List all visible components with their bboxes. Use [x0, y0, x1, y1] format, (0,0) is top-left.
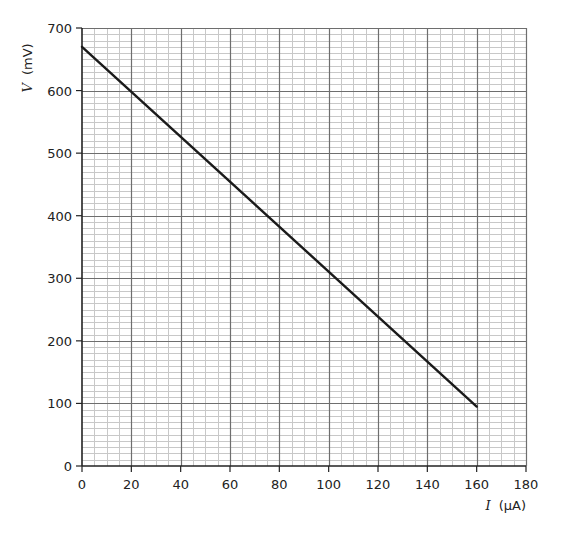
y-axis-label: V (mV)	[20, 43, 35, 92]
minor-grid	[82, 28, 526, 466]
x-tick-label: 80	[271, 477, 288, 492]
x-tick-label: 0	[78, 477, 86, 492]
y-tick-label: 100	[47, 396, 72, 411]
y-tick-label: 400	[47, 209, 72, 224]
y-tick-label: 200	[47, 334, 72, 349]
x-tick-label: 60	[222, 477, 239, 492]
y-tick-label: 500	[47, 146, 72, 161]
x-tick-label: 40	[172, 477, 189, 492]
x-axis-variable: I	[484, 498, 491, 513]
y-tick-label: 600	[47, 84, 72, 99]
chart: 020406080100120140160180 010020030040050…	[0, 0, 561, 538]
y-tick-label: 0	[64, 459, 72, 474]
x-tick-label: 20	[123, 477, 140, 492]
y-axis-variable: V	[20, 82, 35, 93]
x-tick-labels: 020406080100120140160180	[78, 477, 539, 492]
y-axis-unit: (mV)	[20, 43, 35, 75]
x-axis-label: I (µA)	[484, 498, 526, 513]
x-axis-unit: (µA)	[499, 498, 526, 513]
x-tick-label: 120	[366, 477, 391, 492]
y-tick-label: 300	[47, 271, 72, 286]
axes	[76, 28, 526, 472]
y-tick-label: 700	[47, 21, 72, 36]
y-tick-labels: 0100200300400500600700	[47, 21, 72, 474]
x-tick-label: 160	[464, 477, 489, 492]
x-tick-label: 100	[316, 477, 341, 492]
x-tick-label: 180	[514, 477, 539, 492]
x-tick-label: 140	[415, 477, 440, 492]
